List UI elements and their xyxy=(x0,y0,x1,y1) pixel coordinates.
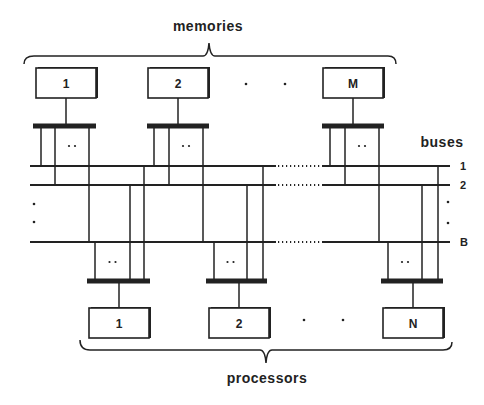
connector-bar xyxy=(381,279,443,284)
connector-bar xyxy=(322,124,384,129)
module-label: 1 xyxy=(116,317,123,331)
connector-bar xyxy=(87,279,150,284)
multibus-diagram: memories processors buses 12B 12M 12N xyxy=(0,0,484,405)
bus-ellipsis-dot-right xyxy=(447,222,450,225)
memory-ellipsis-dot xyxy=(245,83,248,86)
processor-ellipsis-dot xyxy=(303,319,306,322)
memory-2: 2 xyxy=(147,67,210,242)
processor-1: 1 xyxy=(87,166,151,338)
connector-bar xyxy=(147,124,209,129)
buses-label: buses xyxy=(421,134,464,150)
processors-brace xyxy=(80,340,452,363)
module-label: N xyxy=(409,317,418,331)
bus-number-label: 2 xyxy=(460,179,466,191)
module-label: 2 xyxy=(236,317,243,331)
processor-ellipsis-dot xyxy=(342,319,345,322)
memory-modules: 12M xyxy=(33,67,385,242)
module-label: 1 xyxy=(63,77,70,91)
bus-ellipsis-dot-right xyxy=(447,201,450,204)
module-label: 2 xyxy=(175,77,182,91)
bus-number-label: B xyxy=(460,236,468,248)
processor-N: N xyxy=(381,166,445,338)
memories-title: memories xyxy=(173,18,243,34)
processors-title: processors xyxy=(227,370,307,386)
bus-number-label: 1 xyxy=(460,160,466,172)
processor-2: 2 xyxy=(206,166,271,338)
bus-2: 2 xyxy=(30,179,466,191)
connector-bar xyxy=(206,279,267,284)
memories-brace xyxy=(24,43,396,64)
module-label: M xyxy=(348,77,358,91)
memory-1: 1 xyxy=(33,67,98,242)
bus-1: 1 xyxy=(30,160,466,172)
bus-lines: 12B xyxy=(30,160,468,248)
connector-bar xyxy=(33,124,96,129)
bus-ellipsis-dot-left xyxy=(33,221,36,224)
memory-ellipsis-dot xyxy=(284,83,287,86)
bus-ellipsis-dot-left xyxy=(33,203,36,206)
memory-M: M xyxy=(322,67,385,242)
processor-modules: 12N xyxy=(87,166,445,338)
